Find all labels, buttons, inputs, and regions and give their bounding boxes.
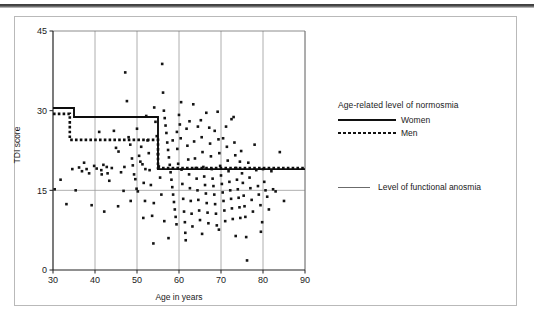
scatter-point [216, 224, 219, 227]
scatter-point [154, 121, 157, 124]
scatter-point [178, 114, 181, 117]
scatter-point [222, 137, 225, 140]
legend-item-anosmia: Level of functional anosmia [338, 182, 533, 192]
scatter-point [106, 172, 109, 175]
scatter-point [113, 130, 116, 133]
scatter-point [226, 145, 229, 148]
scatter-point [188, 173, 191, 176]
scatter-point [228, 181, 231, 184]
scatter-point [174, 208, 177, 211]
scatter-point [221, 183, 224, 186]
scatter-point [129, 200, 132, 203]
scatter-point [225, 125, 228, 128]
scatter-point [270, 170, 273, 173]
scatter-point [199, 219, 202, 222]
chart-plot-area: 304050607080900153045 [0, 0, 534, 323]
scatter-point [176, 148, 179, 151]
scatter-point [179, 137, 182, 140]
legend-label-anosmia: Level of functional anosmia [370, 182, 481, 192]
scatter-point [227, 170, 230, 173]
scatter-point [163, 117, 166, 120]
legend-item-men: Men [338, 126, 528, 139]
legend-item-women: Women [338, 113, 528, 126]
scatter-point [215, 212, 218, 215]
scatter-point [138, 155, 141, 158]
scatter-point [98, 131, 101, 134]
scatter-point [148, 169, 151, 172]
scatter-point [129, 143, 132, 146]
scatter-point [261, 221, 264, 224]
scatter-point [222, 200, 225, 203]
scatter-point [201, 233, 204, 236]
scatter-point [213, 193, 216, 196]
scatter-point [150, 184, 153, 187]
scatter-point [103, 210, 106, 213]
scatter-point [142, 182, 145, 185]
scatter-point [124, 71, 127, 74]
scatter-point [272, 188, 275, 191]
scatter-points [53, 63, 285, 262]
y-axis-title: TDI score [12, 110, 22, 180]
scatter-point [213, 130, 216, 133]
scatter-point [191, 225, 194, 228]
scatter-point [184, 232, 187, 235]
legend-key-dotted-line [338, 127, 396, 139]
scatter-point [242, 182, 245, 185]
legend-normosmia: Age-related level of normosmia Women Men [338, 100, 528, 139]
scatter-point [233, 141, 236, 144]
scatter-point [163, 220, 166, 223]
scatter-point [237, 188, 240, 191]
scatter-point [221, 191, 224, 194]
scatter-point [249, 187, 252, 190]
scatter-point [162, 91, 165, 94]
scatter-point [224, 220, 227, 223]
scatter-point [126, 100, 129, 103]
x-tick-label: 70 [216, 275, 226, 285]
scatter-point [264, 189, 267, 192]
scatter-point [218, 152, 221, 155]
scatter-point [132, 164, 135, 167]
scatter-point [140, 145, 143, 148]
scatter-point [183, 210, 186, 213]
scatter-point [192, 103, 195, 106]
scatter-point [139, 160, 142, 163]
scatter-point [165, 132, 168, 135]
scatter-point [253, 143, 256, 146]
x-tick-label: 60 [174, 275, 184, 285]
scatter-point [234, 154, 237, 157]
scatter-point [243, 205, 246, 208]
scatter-point [93, 165, 96, 168]
scatter-point [90, 204, 93, 207]
legend-key-solid-line [338, 114, 396, 126]
scatter-point [152, 242, 155, 245]
scatter-point [198, 209, 201, 212]
scatter-point [244, 216, 247, 219]
scatter-point [203, 175, 206, 178]
scatter-point [283, 200, 286, 203]
scatter-point [144, 200, 147, 203]
scatter-point [163, 109, 166, 112]
scatter-point [160, 193, 163, 196]
scatter-point [208, 126, 211, 129]
scatter-point [258, 193, 261, 196]
scatter-point [142, 217, 145, 220]
scatter-point [209, 142, 212, 145]
scatter-point [181, 183, 184, 186]
scatter-point [263, 181, 266, 184]
scatter-point [238, 206, 241, 209]
scatter-point [53, 188, 56, 191]
scatter-point [229, 189, 232, 192]
tick-marks: 304050607080900153045 [37, 26, 310, 285]
scatter-point [226, 159, 229, 162]
scatter-point [274, 190, 277, 193]
scatter-point [164, 124, 167, 127]
scatter-point [268, 208, 271, 211]
scatter-point [205, 202, 208, 205]
scatter-point [194, 157, 197, 160]
scatter-point [167, 149, 170, 152]
scatter-point [135, 187, 138, 190]
scatter-point [117, 205, 120, 208]
scatter-point [123, 166, 126, 169]
scatter-point [188, 120, 191, 123]
scatter-point [115, 147, 118, 150]
